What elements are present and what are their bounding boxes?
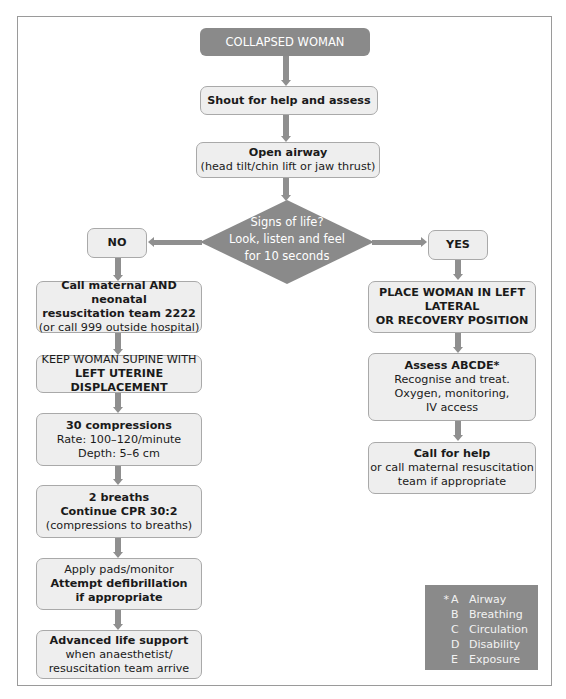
arrow-position-to-assess xyxy=(455,333,461,348)
legend-letter: C xyxy=(451,622,469,637)
airway-title: Open airway xyxy=(249,146,328,160)
step-breaths: 2 breaths Continue CPR 30:2 (compression… xyxy=(36,485,202,538)
step-call-for-help: Call for help or call maternal resuscita… xyxy=(368,442,536,494)
arrow-defib-to-als xyxy=(115,610,121,625)
decision-line3: for 10 seconds xyxy=(200,248,374,265)
arrow-supine-to-compressions xyxy=(115,393,121,408)
assess-line3: Oxygen, monitoring, xyxy=(395,387,510,401)
step-defibrillation: Apply pads/monitor Attempt defibrillatio… xyxy=(36,558,202,610)
start-collapsed-woman: COLLAPSED WOMAN xyxy=(200,28,370,56)
shout-label: Shout for help and assess xyxy=(207,94,370,108)
step-advanced-life-support: Advanced life support when anaesthetist/… xyxy=(36,630,202,679)
arrow-yes-to-position xyxy=(455,260,461,275)
decision-line2: Look, listen and feel xyxy=(200,231,374,248)
breaths-line2: Continue CPR 30:2 xyxy=(60,505,177,519)
arrowhead-icon xyxy=(453,435,463,441)
assess-line4: IV access xyxy=(426,401,478,415)
compressions-title: 30 compressions xyxy=(66,419,172,433)
yes-label: YES xyxy=(446,238,470,252)
arrow-airway-to-decision xyxy=(283,178,289,196)
arrowhead-icon xyxy=(421,237,427,247)
arrow-assess-to-call-help xyxy=(455,421,461,436)
als-line2: when anaesthetist/ xyxy=(65,648,172,662)
call-help-title: Call for help xyxy=(414,447,491,461)
position-line1: PLACE WOMAN IN LEFT xyxy=(379,286,525,300)
abcde-legend: * A Airway B Breathing C Circulation D D… xyxy=(425,585,538,670)
legend-label: Circulation xyxy=(469,622,528,637)
legend-label: Breathing xyxy=(469,607,523,622)
call-team-line1: Call maternal AND neonatal xyxy=(37,279,201,307)
position-line2: LATERAL xyxy=(425,300,480,314)
position-line3: OR RECOVERY POSITION xyxy=(376,314,529,328)
assess-line2: Recognise and treat. xyxy=(394,373,510,387)
legend-letter: A xyxy=(451,592,469,607)
step-recovery-position: PLACE WOMAN IN LEFT LATERAL OR RECOVERY … xyxy=(368,281,536,333)
airway-detail: (head tilt/chin lift or jaw thrust) xyxy=(201,160,376,174)
breaths-title: 2 breaths xyxy=(89,491,149,505)
call-help-line3: team if appropriate xyxy=(398,475,506,489)
arrow-compressions-to-breaths xyxy=(115,466,121,480)
call-team-line2: resuscitation team 2222 xyxy=(42,307,196,321)
legend-row-c: C Circulation xyxy=(441,622,538,637)
defib-line1: Apply pads/monitor xyxy=(64,563,174,577)
legend-row-a: * A Airway xyxy=(441,592,538,607)
step-open-airway: Open airway (head tilt/chin lift or jaw … xyxy=(196,142,380,178)
defib-line3: if appropriate xyxy=(75,591,162,605)
legend-marker: * xyxy=(441,592,451,607)
supine-line2: LEFT UTERINE DISPLACEMENT xyxy=(37,367,201,395)
legend-letter: D xyxy=(451,637,469,652)
breaths-line3: (compressions to breaths) xyxy=(46,519,192,533)
defib-line2: Attempt defibrillation xyxy=(50,577,187,591)
legend-row-b: B Breathing xyxy=(441,607,538,622)
als-title: Advanced life support xyxy=(50,634,189,648)
arrow-call-to-supine xyxy=(115,333,121,350)
call-help-line2: or call maternal resuscitation xyxy=(370,461,534,475)
decision-text: Signs of life? Look, listen and feel for… xyxy=(200,214,374,265)
arrow-start-to-shout xyxy=(283,56,289,81)
arrow-decision-to-no xyxy=(154,240,202,245)
legend-letter: E xyxy=(451,652,469,667)
legend-letter: B xyxy=(451,607,469,622)
arrow-shout-to-airway xyxy=(283,115,289,137)
no-label: NO xyxy=(108,236,127,250)
compressions-depth: Depth: 5–6 cm xyxy=(78,447,160,461)
no-label-box: NO xyxy=(87,228,147,258)
step-keep-supine: KEEP WOMAN SUPINE WITH LEFT UTERINE DISP… xyxy=(36,355,202,393)
arrow-decision-to-yes xyxy=(372,240,422,245)
legend-label: Exposure xyxy=(469,652,520,667)
arrow-breaths-to-defib xyxy=(115,538,121,553)
step-assess-abcde: Assess ABCDE* Recognise and treat. Oxyge… xyxy=(368,353,536,421)
yes-label-box: YES xyxy=(428,230,488,260)
als-line3: resuscitation team arrive xyxy=(49,662,190,676)
legend-label: Disability xyxy=(469,637,520,652)
step-compressions: 30 compressions Rate: 100–120/minute Dep… xyxy=(36,413,202,466)
arrow-no-to-call xyxy=(115,258,121,276)
legend-row-d: D Disability xyxy=(441,637,538,652)
arrowhead-icon xyxy=(148,237,154,247)
legend-row-e: E Exposure xyxy=(441,652,538,667)
compressions-rate: Rate: 100–120/minute xyxy=(57,433,182,447)
step-call-team: Call maternal AND neonatal resuscitation… xyxy=(36,281,202,333)
decision-line1: Signs of life? xyxy=(200,214,374,231)
step-shout-for-help: Shout for help and assess xyxy=(200,86,378,115)
supine-line1: KEEP WOMAN SUPINE WITH xyxy=(42,353,197,367)
start-label: COLLAPSED WOMAN xyxy=(226,35,345,49)
arrowhead-icon xyxy=(453,274,463,280)
legend-label: Airway xyxy=(469,592,506,607)
assess-title: Assess ABCDE* xyxy=(405,359,500,373)
